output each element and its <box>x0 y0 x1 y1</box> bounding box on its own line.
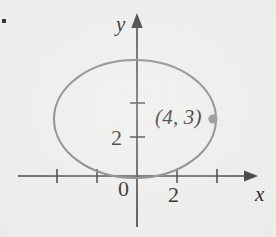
y-axis-arrowhead-icon <box>131 13 142 28</box>
x-axis-label: x <box>255 182 264 207</box>
origin-label: 0 <box>118 176 129 202</box>
y-tick-label-two: 2 <box>111 125 122 151</box>
point-label-4-3: (4, 3) <box>155 105 202 130</box>
plot-canvas <box>0 0 276 237</box>
x-axis-arrowhead-icon <box>244 170 258 181</box>
x-tick-label-two: 2 <box>168 182 179 208</box>
scan-artifact-mark <box>2 19 6 23</box>
y-axis-label: y <box>116 12 125 37</box>
ellipse-graph-figure: y x 0 2 2 (4, 3) <box>0 0 276 237</box>
point-marker-4-3 <box>208 114 217 123</box>
